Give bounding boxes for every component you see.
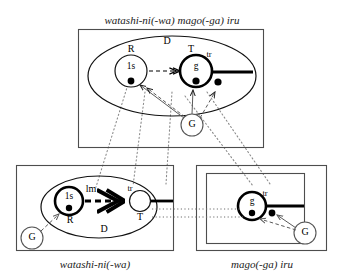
horizontal-correspondence-lines bbox=[152, 209, 243, 217]
bottom-right-ground-arrow-profile-dot bbox=[277, 215, 296, 228]
top-reference-dot bbox=[128, 78, 135, 85]
bottom-right-target-entity-label: g bbox=[250, 196, 255, 206]
bottom-left-reference-dot bbox=[66, 205, 72, 211]
bottom-right-trajector-label: tr bbox=[262, 188, 267, 198]
bottom-right-target-dot bbox=[249, 210, 255, 216]
bottom-left-landmark-label: lm bbox=[86, 183, 97, 194]
top-domain-label: D bbox=[163, 35, 170, 46]
correspondence-lines bbox=[96, 78, 270, 187]
top-ground-arrow-profile-dot bbox=[200, 92, 215, 118]
top-box-group: D 1s R g T tr G bbox=[79, 30, 264, 148]
bottom-left-reference-entity-label: 1s bbox=[65, 191, 74, 201]
top-trajector-label: tr bbox=[206, 49, 211, 59]
bottom-left-domain-label: D bbox=[100, 223, 107, 234]
top-target-entity-label: g bbox=[194, 61, 199, 71]
bottom-right-ground-label: G bbox=[301, 226, 308, 237]
bottom-left-ground-label: G bbox=[28, 231, 35, 242]
bottom-left-trajector-label: tr bbox=[127, 183, 132, 193]
page-title: watashi-ni(-wa) mago(-ga) iru bbox=[104, 14, 240, 27]
bottom-left-caption: watashi-ni(-wa) bbox=[60, 258, 131, 271]
top-ground-label: G bbox=[188, 118, 195, 129]
bottom-right-profile-dot bbox=[269, 210, 276, 217]
bottom-left-target-circle bbox=[130, 191, 151, 212]
top-ground-arrow-reference bbox=[140, 85, 184, 118]
top-reference-label: R bbox=[128, 43, 135, 54]
top-reference-entity-label: 1s bbox=[127, 61, 136, 71]
bottom-left-box-group: D 1s R lm tr T G watashi-ni(-wa) bbox=[17, 166, 174, 271]
top-ground-arrow-target bbox=[192, 90, 193, 114]
bottom-right-caption: mago(-ga) iru bbox=[231, 258, 294, 271]
top-target-label: T bbox=[188, 43, 194, 54]
top-target-dot bbox=[192, 77, 199, 84]
bottom-right-box-group: g tr G mago(-ga) iru bbox=[197, 166, 327, 271]
bottom-left-reference-label: R bbox=[67, 214, 74, 225]
top-box-frame bbox=[79, 30, 264, 148]
bottom-left-target-label: T bbox=[137, 211, 143, 222]
top-profile-dot bbox=[214, 78, 221, 85]
top-ground-arrow-reference-2 bbox=[147, 88, 185, 117]
top-domain-ellipse bbox=[88, 36, 256, 116]
cognitive-grammar-figure: watashi-ni(-wa) mago(-ga) iru D 1s R g T… bbox=[0, 0, 343, 279]
